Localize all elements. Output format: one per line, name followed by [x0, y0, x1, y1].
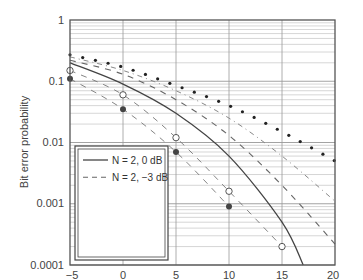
y-tick-0.001: 0.001	[36, 197, 64, 209]
x-tick-20: 20	[327, 269, 339, 280]
x-tick-10: 10	[223, 269, 235, 280]
y-tick-0.0001: 0.0001	[30, 259, 64, 271]
y-tick-1: 1	[58, 14, 64, 26]
y-axis-ticks: 1 0.1 0.01 0.001 0.0001	[30, 14, 64, 271]
legend-label: N = 2, −3 dB	[112, 172, 168, 183]
x-tick-0: 0	[120, 269, 126, 280]
y-tick-0.1: 0.1	[49, 75, 64, 87]
legend: N = 2, 0 dBN = 2, −3 dB	[75, 146, 168, 260]
y-tick-0.01: 0.01	[43, 136, 64, 148]
y-axis-title: Bit error probability	[18, 95, 30, 188]
ber-chart: 1 0.1 0.01 0.001 0.0001 −5 0 5 10 15 20 …	[0, 0, 363, 280]
x-tick-5: 5	[173, 269, 179, 280]
x-tick-15: 15	[276, 269, 288, 280]
x-axis-ticks: −5 0 5 10 15 20	[66, 269, 339, 280]
x-tick--5: −5	[66, 269, 79, 280]
legend-label: N = 2, 0 dB	[112, 155, 163, 166]
